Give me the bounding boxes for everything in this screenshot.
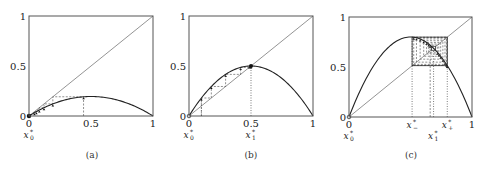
x-annotation: x [343, 131, 348, 141]
x-annotation: x [245, 130, 250, 140]
x-tick-label: 1 [310, 118, 316, 129]
panel-a-logistic-cobweb: 00.5100.51x*0(a) [10, 11, 156, 161]
x-tick-label: 1 [150, 118, 156, 129]
annotation-subscript: 1 [252, 134, 256, 141]
annotation-subscript: − [413, 124, 418, 131]
x-tick-label: 0.5 [243, 118, 259, 129]
panel-caption: (b) [245, 150, 258, 160]
annotation-subscript: 0 [190, 134, 194, 141]
panel-c-logistic-cobweb: 00.5101x*0x*−x*+x*1(c) [330, 12, 475, 161]
identity-line [349, 17, 472, 117]
panel-b-logistic-cobweb: 00.5100.51x*0x*1(b) [170, 11, 316, 161]
x-tick-label: 1 [469, 119, 475, 130]
fixed-point-dot [249, 64, 253, 68]
y-tick-label: 1 [340, 12, 346, 23]
y-tick-label: 0.5 [10, 61, 26, 72]
y-tick-label: 0.5 [330, 62, 346, 73]
y-tick-label: 1 [20, 11, 26, 22]
annotation-subscript: + [448, 124, 453, 131]
x-annotation: x [428, 131, 433, 141]
panel-caption: (c) [405, 150, 417, 160]
x-annotation: x [407, 120, 412, 130]
cobweb-path [412, 37, 447, 117]
annotation-subscript: 0 [30, 134, 34, 141]
x-annotation: x [183, 130, 188, 140]
cobweb-figure: 00.5100.51x*0(a) 00.5100.51x*0x*1(b) 00.… [0, 0, 485, 171]
x-tick-label: 0.5 [83, 118, 99, 129]
x-annotation: x [23, 130, 28, 140]
annotation-subscript: 0 [350, 135, 354, 142]
y-tick-label: 1 [180, 11, 186, 22]
y-tick-label: 0.5 [170, 61, 186, 72]
panel-caption: (a) [86, 150, 98, 160]
logistic-curve [349, 37, 472, 117]
x-annotation: x [442, 120, 447, 130]
logistic-curve [29, 97, 153, 117]
identity-line [29, 16, 153, 116]
annotation-subscript: 1 [435, 135, 439, 142]
